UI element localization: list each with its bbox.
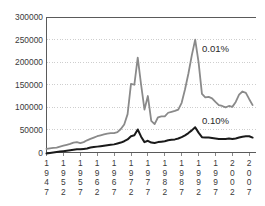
- y-axis-label: 300000: [15, 12, 43, 22]
- x-axis-label-digit: 7: [129, 177, 134, 187]
- x-axis-label: 1977: [146, 158, 151, 197]
- x-axis-label-digit: 9: [213, 168, 218, 178]
- x-axis-label-digit: 1: [129, 158, 134, 168]
- x-axis-label: 2002: [230, 158, 235, 197]
- y-axis-label: 50000: [20, 125, 44, 135]
- x-axis-label-digit: 1: [95, 158, 100, 168]
- x-axis-label-digit: 2: [196, 187, 201, 197]
- x-axis-label-digit: 6: [95, 177, 100, 187]
- x-axis-label-digit: 9: [78, 168, 83, 178]
- x-axis-label: 1957: [78, 158, 83, 197]
- x-axis-label-digit: 1: [61, 158, 66, 168]
- x-axis-label-digit: 7: [213, 187, 218, 197]
- x-axis-label-digit: 9: [196, 168, 201, 178]
- line-chart: 300000250000200000150000100000500000 194…: [0, 0, 265, 206]
- y-axis-label: 250000: [15, 35, 43, 45]
- x-axis-label-digit: 0: [230, 177, 235, 187]
- y-axis-label: 150000: [15, 80, 43, 90]
- x-axis-label: 1997: [213, 158, 218, 197]
- x-axis-label-digit: 0: [247, 177, 252, 187]
- y-axis-label: 100000: [15, 102, 43, 112]
- x-axis-label: 1947: [44, 158, 49, 197]
- x-axis-label-digit: 2: [230, 187, 235, 197]
- x-axis-label-digit: 7: [247, 187, 252, 197]
- x-axis-label-digit: 9: [61, 168, 66, 178]
- x-axis-label-digit: 7: [78, 187, 83, 197]
- x-axis-label-digit: 2: [129, 187, 134, 197]
- x-axis-label-digit: 5: [78, 177, 83, 187]
- x-axis-label-digit: 9: [213, 177, 218, 187]
- x-axis-label-digit: 7: [146, 177, 151, 187]
- y-axis-label: 200000: [15, 57, 43, 67]
- x-axis-label: 1987: [179, 158, 184, 197]
- series-annotation-0: 0.01%: [202, 43, 230, 54]
- x-axis-label-digit: 1: [196, 158, 201, 168]
- x-axis-label: 2007: [247, 158, 252, 197]
- x-axis-label: 1972: [129, 158, 134, 197]
- x-axis-label: 1982: [162, 158, 167, 197]
- x-axis-label-digit: 1: [112, 158, 117, 168]
- y-axis-label: 0: [38, 148, 43, 158]
- x-axis-label: 1992: [196, 158, 201, 197]
- x-axis-label-digit: 7: [44, 187, 49, 197]
- x-axis-label-digit: 7: [146, 187, 151, 197]
- x-axis-label-digit: 1: [78, 158, 83, 168]
- x-axis-label-digit: 8: [179, 177, 184, 187]
- x-axis-label: 1952: [61, 158, 66, 197]
- x-axis-label-digit: 7: [179, 187, 184, 197]
- x-axis-label-digit: 1: [179, 158, 184, 168]
- x-axis-label-digit: 5: [61, 177, 66, 187]
- x-axis-label-digit: 4: [44, 177, 49, 187]
- x-axis-label-digit: 1: [146, 158, 151, 168]
- chart-container: 300000250000200000150000100000500000 194…: [0, 0, 265, 206]
- x-axis-label-digit: 0: [230, 168, 235, 178]
- x-axis-label-digit: 9: [112, 168, 117, 178]
- x-axis-label-digit: 9: [129, 168, 134, 178]
- x-axis-label-digit: 9: [179, 168, 184, 178]
- x-axis-label-digit: 1: [213, 158, 218, 168]
- x-axis-label-digit: 2: [230, 158, 235, 168]
- x-axis-label-digit: 2: [95, 187, 100, 197]
- x-axis-label-digit: 1: [44, 158, 49, 168]
- x-axis-label-digit: 1: [162, 158, 167, 168]
- series-annotation-1: 0.10%: [202, 115, 230, 126]
- x-axis-label-digit: 2: [61, 187, 66, 197]
- x-axis-label-digit: 2: [162, 187, 167, 197]
- x-axis-label-digit: 9: [146, 168, 151, 178]
- x-axis-label-digit: 6: [112, 177, 117, 187]
- x-axis-label-digit: 9: [44, 168, 49, 178]
- x-axis-label-digit: 9: [162, 168, 167, 178]
- x-axis-label-digit: 9: [95, 168, 100, 178]
- x-axis-label-digit: 7: [112, 187, 117, 197]
- x-axis-label-digit: 2: [247, 158, 252, 168]
- x-axis-label: 1962: [95, 158, 100, 197]
- x-axis-label-digit: 9: [196, 177, 201, 187]
- x-axis-label-digit: 8: [162, 177, 167, 187]
- x-axis-label-digit: 0: [247, 168, 252, 178]
- x-axis-label: 1967: [112, 158, 117, 197]
